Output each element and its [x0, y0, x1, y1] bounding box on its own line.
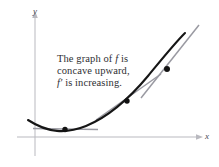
- caption-line1-pre: The graph of: [57, 53, 115, 64]
- point-3: [164, 66, 170, 72]
- caption-line3-post: is increasing.: [62, 77, 122, 88]
- concave-upward-figure: y x The graph of f is concave upward, f′…: [0, 0, 219, 167]
- figure-caption: The graph of f is concave upward, f′ is …: [57, 53, 153, 90]
- point-1: [62, 127, 67, 132]
- x-axis-label: x: [205, 132, 209, 141]
- y-axis-label: y: [33, 7, 37, 16]
- caption-line-1: The graph of f is: [57, 53, 153, 65]
- caption-line-2: concave upward,: [57, 65, 153, 77]
- point-2: [124, 98, 129, 103]
- x-axis-arrow-icon: [196, 134, 203, 140]
- caption-line-3: f′ is increasing.: [57, 77, 153, 89]
- caption-line1-post: is: [118, 53, 128, 64]
